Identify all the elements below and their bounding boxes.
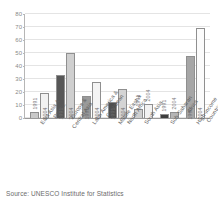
y-axis-tick-label: 30: [15, 76, 22, 82]
y-axis-tick-label: 0: [19, 115, 22, 121]
x-axis-label-cell: Latin America &Caribbean: [78, 120, 104, 182]
y-axis-tick-label: 70: [15, 24, 22, 30]
source-note: Source: UNESCO Institute for Statistics: [6, 190, 124, 197]
bar[interactable]: 1991: [160, 114, 169, 118]
x-axis-label-cell: Sub-SaharanAfrica: [156, 120, 182, 182]
bar-series-label: 2004: [172, 97, 177, 109]
x-axis-label-cell: South Asia: [130, 120, 156, 182]
x-axis-label-cell: Middle East &North Africa: [104, 120, 130, 182]
y-axis-tick-label: 40: [15, 63, 22, 69]
bar-series-label: 1991: [32, 97, 37, 109]
y-axis-tick-label: 20: [15, 89, 22, 95]
y-axis-tick-label: 10: [15, 102, 22, 108]
bar-group: 19912004: [27, 14, 53, 118]
x-axis-label-cell: Europe &Central Asia: [52, 120, 78, 182]
x-axis-label-cell: High-incomeCountries: [182, 120, 208, 182]
y-axis-tick-mark: [23, 118, 25, 119]
y-axis-tick-label: 80: [15, 11, 22, 17]
figure: 01020304050607080 1991200419912004199120…: [0, 0, 218, 208]
y-axis-tick-label: 50: [15, 50, 22, 56]
clipped-top-text: [0, 0, 218, 11]
y-axis-tick-label: 60: [15, 37, 22, 43]
x-axis-label-cell: East Asia &Pacific: [26, 120, 52, 182]
bar[interactable]: 1991: [30, 112, 39, 119]
x-axis-labels: East Asia &PacificEurope &Central AsiaLa…: [24, 120, 210, 182]
